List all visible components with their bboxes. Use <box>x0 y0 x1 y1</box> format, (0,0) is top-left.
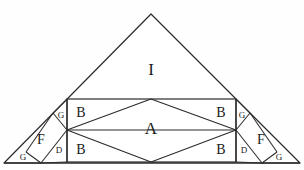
label-F-right: F <box>257 133 265 147</box>
label-A: A <box>145 120 157 137</box>
label-G-corner-right: G <box>276 153 283 162</box>
label-B-top-left: B <box>76 106 85 120</box>
label-I: I <box>148 61 154 78</box>
label-G-upper-right: G <box>239 111 246 120</box>
label-F-left: F <box>37 133 45 147</box>
label-G-upper-left: G <box>58 111 65 120</box>
label-G-corner-left: G <box>20 153 27 162</box>
label-D-right: D <box>241 146 248 155</box>
geometric-figure: I A B B B B F F G G G G D D <box>0 0 304 170</box>
label-B-bottom-right: B <box>216 143 225 157</box>
label-B-bottom-left: B <box>76 143 85 157</box>
label-D-left: D <box>56 146 63 155</box>
label-B-top-right: B <box>216 106 225 120</box>
